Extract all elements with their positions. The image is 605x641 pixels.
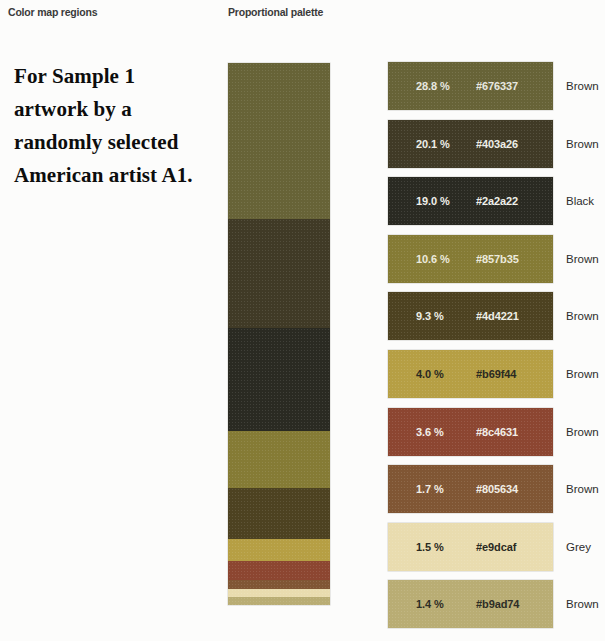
- palette-row: 1.5 %#e9dcafGrey: [388, 523, 603, 581]
- color-family-label: Brown: [566, 408, 599, 456]
- colormap-band: [228, 488, 330, 538]
- color-swatch: 28.8 %#676337: [388, 62, 553, 110]
- color-swatch: 1.5 %#e9dcaf: [388, 523, 553, 571]
- colormap-band: [228, 561, 330, 581]
- percent-label: 19.0 %: [416, 195, 450, 207]
- hex-code-label: #2a2a22: [476, 195, 518, 207]
- percent-label: 9.3 %: [416, 310, 444, 322]
- colormap-band: [228, 328, 330, 431]
- colormap-regions-strip: [228, 63, 330, 605]
- palette-column-header: Proportional palette: [228, 6, 323, 18]
- color-swatch: 1.4 %#b9ad74: [388, 580, 553, 628]
- color-swatch: 1.7 %#805634: [388, 465, 553, 513]
- colormap-column-header: Color map regions: [8, 6, 97, 18]
- hex-code-label: #b9ad74: [476, 598, 519, 610]
- color-family-label: Brown: [566, 62, 599, 110]
- palette-row: 10.6 %#857b35Brown: [388, 235, 603, 293]
- palette-row: 28.8 %#676337Brown: [388, 62, 603, 120]
- figure-caption: For Sample 1 artwork by a randomly selec…: [14, 60, 210, 192]
- percent-label: 1.4 %: [416, 598, 444, 610]
- percent-label: 4.0 %: [416, 368, 444, 380]
- colormap-band: [228, 580, 330, 589]
- color-swatch: 19.0 %#2a2a22: [388, 177, 553, 225]
- color-family-label: Black: [566, 177, 594, 225]
- hex-code-label: #b69f44: [476, 368, 516, 380]
- hex-code-label: #676337: [476, 80, 518, 92]
- color-swatch: 10.6 %#857b35: [388, 235, 553, 283]
- hex-code-label: #8c4631: [476, 426, 518, 438]
- color-swatch: 3.6 %#8c4631: [388, 408, 553, 456]
- percent-label: 1.5 %: [416, 541, 444, 553]
- color-family-label: Brown: [566, 235, 599, 283]
- percent-label: 28.8 %: [416, 80, 450, 92]
- figure-canvas: Color map regions Proportional palette F…: [0, 0, 605, 641]
- colormap-band: [228, 219, 330, 328]
- colormap-band: [228, 63, 330, 219]
- color-family-label: Brown: [566, 292, 599, 340]
- palette-row: 9.3 %#4d4221Brown: [388, 292, 603, 350]
- hex-code-label: #e9dcaf: [476, 541, 516, 553]
- palette-row: 1.7 %#805634Brown: [388, 465, 603, 523]
- hex-code-label: #403a26: [476, 138, 518, 150]
- colormap-band: [228, 589, 330, 597]
- palette-row: 4.0 %#b69f44Brown: [388, 350, 603, 408]
- palette-row: 1.4 %#b9ad74Brown: [388, 580, 603, 638]
- palette-row: 3.6 %#8c4631Brown: [388, 408, 603, 466]
- color-swatch: 9.3 %#4d4221: [388, 292, 553, 340]
- color-swatch: 20.1 %#403a26: [388, 120, 553, 168]
- colormap-band: [228, 597, 330, 605]
- percent-label: 20.1 %: [416, 138, 450, 150]
- palette-row: 19.0 %#2a2a22Black: [388, 177, 603, 235]
- color-swatch: 4.0 %#b69f44: [388, 350, 553, 398]
- colormap-band: [228, 431, 330, 488]
- percent-label: 3.6 %: [416, 426, 444, 438]
- palette-row: 20.1 %#403a26Brown: [388, 120, 603, 178]
- color-family-label: Brown: [566, 120, 599, 168]
- proportional-palette-list: 28.8 %#676337Brown20.1 %#403a26Brown19.0…: [388, 62, 603, 638]
- percent-label: 1.7 %: [416, 483, 444, 495]
- color-family-label: Grey: [566, 523, 591, 571]
- colormap-band: [228, 539, 330, 561]
- hex-code-label: #857b35: [476, 253, 519, 265]
- hex-code-label: #4d4221: [476, 310, 519, 322]
- color-family-label: Brown: [566, 580, 599, 628]
- color-family-label: Brown: [566, 465, 599, 513]
- percent-label: 10.6 %: [416, 253, 450, 265]
- color-family-label: Brown: [566, 350, 599, 398]
- hex-code-label: #805634: [476, 483, 518, 495]
